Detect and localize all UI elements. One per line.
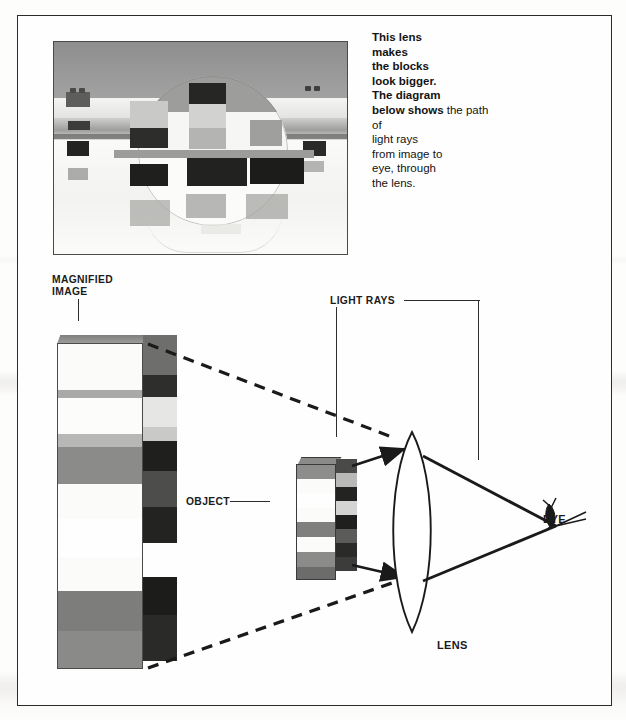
photo-magnified-block-2-dark <box>130 128 168 148</box>
photo-lower-row-block-2 <box>187 158 247 186</box>
photo-magnified-block-4 <box>250 120 282 146</box>
caption-paragraph-2-bold: The diagram below shows <box>372 89 444 116</box>
photo-small-block-left-mid <box>68 121 90 130</box>
tower-band <box>58 557 142 591</box>
object-block-tower <box>296 455 358 581</box>
magnified-image-block-tower <box>57 335 177 671</box>
object-band <box>297 508 335 522</box>
tower-band <box>58 484 142 519</box>
object-band <box>297 465 335 479</box>
photo-lower-row-block-3 <box>250 158 304 184</box>
object-side-band <box>336 459 357 473</box>
photo-small-block-left-low <box>67 141 89 156</box>
tower-side-band <box>143 397 177 427</box>
magnified-image-leader <box>78 299 79 321</box>
object-band <box>297 552 335 567</box>
tower-side-band <box>143 615 177 661</box>
light-rays-leader-vertical-right <box>478 300 479 460</box>
photo-lens-handle-shadow <box>201 224 241 234</box>
object-leader <box>230 501 270 502</box>
tower-band <box>58 519 142 557</box>
label-eye: EYE <box>543 513 566 525</box>
tower-band <box>58 390 142 398</box>
object-side-band <box>336 543 357 557</box>
tower-band <box>58 591 142 631</box>
object-band <box>297 479 335 493</box>
photo-small-block-reflection-right <box>302 161 324 172</box>
object-side-band <box>336 529 357 543</box>
label-light-rays: LIGHT RAYS <box>330 295 395 307</box>
object-side-band <box>336 557 357 571</box>
object-band <box>297 567 335 580</box>
object-side-band <box>336 515 357 529</box>
photo-magnified-block-2-light <box>130 101 168 128</box>
tower-side-band <box>143 577 177 615</box>
tower-band <box>58 344 142 390</box>
object-band <box>297 522 335 537</box>
photo-magnified-block-3 <box>189 128 226 149</box>
tower-front-face <box>57 343 143 669</box>
tower-band <box>58 447 142 484</box>
photo-small-block-right <box>302 90 326 106</box>
photo-small-block-left <box>66 92 90 107</box>
tower-side-band <box>143 427 177 441</box>
tower-side-band <box>143 471 177 507</box>
photo-small-block-right-studs2 <box>314 86 320 91</box>
object-side-band <box>336 501 357 515</box>
object-band <box>297 537 335 552</box>
object-side-band <box>336 487 357 501</box>
light-rays-leader-horizontal <box>404 300 480 301</box>
label-magnified-image: MAGNIFIED IMAGE <box>52 274 113 299</box>
caption-paragraph-2: The diagram below shows the path of ligh… <box>372 88 492 190</box>
photo-lower-row-block-1 <box>130 164 168 186</box>
object-side-band <box>336 473 357 487</box>
object-band <box>297 493 335 508</box>
photo-small-block-right-studs <box>305 86 311 91</box>
tower-band <box>58 398 142 434</box>
photo-small-block-left-studs2 <box>79 88 85 93</box>
photo-small-block-left-studs <box>70 88 76 93</box>
tower-right-face <box>143 335 177 661</box>
caption-paragraph-2-regular: the path of light rays from image to eye… <box>372 104 488 189</box>
tower-side-band <box>143 543 177 577</box>
caption-column: This lens makes the blocks look bigger. … <box>372 30 492 191</box>
tower-side-band <box>143 441 177 471</box>
tower-side-band <box>143 507 177 543</box>
object-front-face <box>296 464 336 580</box>
caption-paragraph-1: This lens makes the blocks look bigger. <box>372 30 492 88</box>
photo-magnified-block-4-dark <box>250 100 282 120</box>
tower-side-band <box>143 335 177 375</box>
photo-magnified-block-1-dark <box>189 83 226 104</box>
tower-band <box>58 434 142 447</box>
object-right-face <box>336 459 357 571</box>
lens-photograph <box>53 41 348 255</box>
photo-lower-row-band <box>114 150 314 158</box>
photo-small-block-reflection-left <box>68 168 88 180</box>
tower-band <box>58 631 142 669</box>
label-lens: LENS <box>437 639 468 651</box>
label-object: OBJECT <box>186 496 230 508</box>
tower-side-band <box>143 375 177 397</box>
light-rays-leader-vertical-left <box>336 307 337 437</box>
